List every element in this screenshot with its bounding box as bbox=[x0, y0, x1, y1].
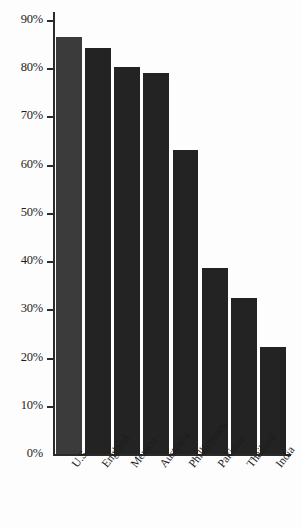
bar-chart: 0%10%20%30%40%50%60%70%80%90% U.S.Englan… bbox=[0, 0, 301, 529]
x-axis-tick-group: U.S.EnglandMexicoAustraliaPhillippinesPa… bbox=[0, 458, 301, 529]
bar bbox=[56, 37, 82, 455]
bar bbox=[85, 48, 111, 455]
bar bbox=[114, 67, 140, 455]
bar bbox=[143, 73, 169, 455]
bar bbox=[173, 150, 199, 455]
bar bbox=[231, 298, 257, 455]
